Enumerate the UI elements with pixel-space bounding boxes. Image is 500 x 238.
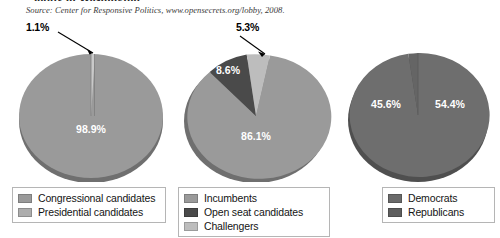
legend-item-label: Open seat candidates (204, 206, 303, 219)
pie-svg-3: 45.6% 54.4% (340, 24, 500, 182)
pie-plot-area: 8.6% 86.1% 5.3% (170, 24, 342, 182)
callout-arrow-head (87, 49, 93, 55)
legend-item[interactable]: Democrats (388, 191, 487, 205)
legend-swatch-icon (184, 222, 198, 231)
legend-item-label: Congressional candidates (38, 192, 155, 205)
legend-item[interactable]: Presidential candidates (18, 205, 158, 219)
figure-title-clipped: lobby in Washington (34, 0, 334, 1)
legend-item-label: Presidential candidates (38, 206, 143, 219)
legend-swatch-icon (18, 208, 32, 217)
legend-item[interactable]: Open seat candidates (184, 205, 322, 219)
legend-item-label: Incumbents (204, 192, 257, 205)
pie-inner-label-congressional: 98.9% (76, 123, 106, 135)
pie-chart-figure: lobby in Washington Source: Center for R… (0, 0, 500, 238)
pie-callout-challengers: 5.3% (236, 22, 259, 33)
pie-inner-label-republicans: 54.4% (435, 98, 465, 110)
legend-swatch-icon (388, 194, 402, 203)
legend-swatch-icon (184, 208, 198, 217)
legend-item[interactable]: Incumbents (184, 191, 322, 205)
legend-swatch-icon (388, 208, 402, 217)
source-note: Source: Center for Responsive Politics, … (26, 4, 285, 16)
pie-chart-congressional: 98.9% 1.1% (8, 24, 173, 182)
legend-item[interactable]: Congressional candidates (18, 191, 158, 205)
pie-svg-2: 8.6% 86.1% (170, 24, 342, 182)
legend-item[interactable]: Challengers (184, 219, 322, 233)
callout-leader-line (240, 36, 265, 54)
legend-item-label: Democrats (408, 192, 457, 205)
legend-swatch-icon (18, 194, 32, 203)
legend-item[interactable]: Republicans (388, 205, 487, 219)
pie-chart-incumbents: 8.6% 86.1% 5.3% (170, 24, 342, 182)
pie-slice-republicans[interactable] (350, 53, 490, 177)
pie-inner-label-open-seat: 8.6% (216, 64, 241, 76)
legend-item-label: Challengers (204, 220, 258, 233)
pie-plot-area: 98.9% 1.1% (8, 24, 173, 182)
legend-congressional: Congressional candidates Presidential ca… (12, 187, 166, 223)
legend-swatch-icon (184, 194, 198, 203)
pie-inner-label-incumbents: 86.1% (241, 130, 271, 142)
legend-incumbents: Incumbents Open seat candidates Challeng… (178, 187, 330, 237)
legend-party: Democrats Republicans (382, 187, 495, 223)
pie-chart-party: 45.6% 54.4% (340, 24, 500, 182)
legend-item-label: Republicans (408, 206, 464, 219)
pie-inner-label-democrats: 45.6% (371, 98, 401, 110)
pie-plot-area: 45.6% 54.4% (340, 24, 500, 182)
pie-callout-presidential: 1.1% (26, 22, 49, 33)
pie-svg-1: 98.9% (8, 24, 173, 182)
